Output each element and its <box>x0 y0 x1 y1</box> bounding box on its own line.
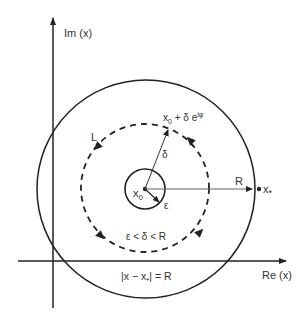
complex-plane-diagram: Im (x) Re (x) L δ x0 ε ε < δ < R x0 + δ … <box>0 0 307 321</box>
contour-arrow-icon <box>91 134 206 242</box>
x-axis-label: Re (x) <box>262 269 292 281</box>
center-label: x0 <box>133 187 144 202</box>
center-label-sub: 0 <box>139 193 144 202</box>
point-label-rest: + δ e <box>172 112 198 123</box>
circle-equation-left: |x − x <box>121 270 147 282</box>
epsilon-radius <box>145 189 159 202</box>
radius-label: R <box>235 175 243 187</box>
circle-equation-right: | = R <box>149 270 172 282</box>
delta-label: δ <box>162 149 168 160</box>
y-axis-label: Im (x) <box>64 27 92 39</box>
singular-point <box>257 187 261 191</box>
circle-equation: |x − x*| = R <box>121 270 172 285</box>
point-label: x0 + δ eiφ <box>163 111 204 125</box>
contour-label: L <box>91 131 97 143</box>
epsilon-label: ε <box>164 200 169 211</box>
point-label-sup: iφ <box>197 111 204 119</box>
inequality-label: ε < δ < R <box>126 231 166 242</box>
singular-label: x* <box>263 183 273 198</box>
singular-label-sub: * <box>269 188 273 198</box>
